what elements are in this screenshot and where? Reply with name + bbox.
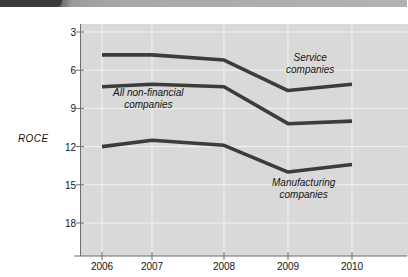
annotation-all-non-financial-companies: All non-financial companies: [113, 87, 184, 111]
y-axis-tick-labels: 181512963: [50, 7, 76, 277]
x-axis-tick-label: 2010: [341, 261, 363, 272]
y-axis-tick-label: 9: [52, 103, 76, 114]
chart-figure: ROCE 181512963 Service companies All non…: [0, 7, 407, 277]
y-axis-tick-label: 18: [52, 218, 76, 229]
x-axis-tick-label: 2006: [91, 261, 113, 272]
y-axis-tick-label: 3: [52, 27, 76, 38]
annotation-manufact-line2: companies: [272, 189, 335, 201]
annotation-allnonfin-line1: All non-financial: [113, 87, 184, 98]
top-bar-dark-segment: [0, 0, 62, 7]
top-decorative-bar: [0, 0, 407, 7]
annotation-allnonfin-line2: companies: [113, 99, 184, 111]
x-axis-tick-label: 2008: [213, 261, 235, 272]
y-axis-tick-label: 6: [52, 65, 76, 76]
y-axis-tick-label: 12: [52, 141, 76, 152]
plot-area: [80, 24, 408, 256]
annotation-manufact-line1: Manufacturing: [272, 177, 335, 188]
y-axis-tick-label: 15: [52, 179, 76, 190]
annotation-service-line2: companies: [286, 64, 334, 76]
annotation-manufacturing-companies: Manufacturing companies: [272, 177, 335, 201]
annotation-service-line1: Service: [294, 52, 327, 63]
annotation-service-companies: Service companies: [286, 52, 334, 76]
y-axis-title: ROCE: [18, 133, 49, 144]
x-axis-tick-label: 2007: [141, 261, 163, 272]
x-axis-tick-label: 2009: [277, 261, 299, 272]
